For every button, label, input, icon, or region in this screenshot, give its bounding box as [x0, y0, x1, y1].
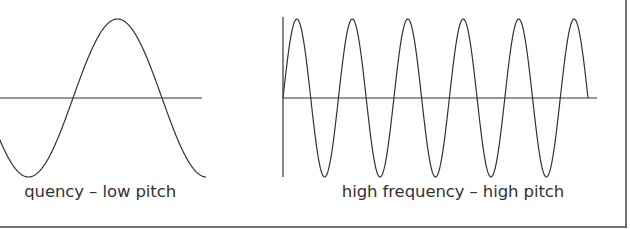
low-frequency-panel: [0, 19, 206, 177]
low-frequency-caption: quency – low pitch: [24, 182, 176, 201]
high-frequency-panel: [283, 17, 597, 177]
high-frequency-caption: high frequency – high pitch: [342, 182, 564, 201]
diagram: quency – low pitch high frequency – high…: [0, 0, 630, 229]
